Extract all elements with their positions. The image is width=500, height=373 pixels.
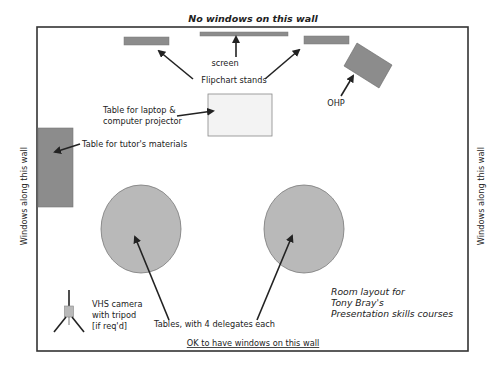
title-line-3: Presentation skills courses <box>331 308 453 319</box>
arrow-flipchart-left <box>159 51 193 79</box>
left-wall-label: Windows along this wall <box>19 147 29 245</box>
camera-label-2: with tripod <box>92 310 136 320</box>
flipchart-label: Flipchart stands <box>201 75 267 85</box>
flipchart-stand-right <box>304 36 349 44</box>
laptop-table <box>208 94 272 136</box>
ohp-label: OHP <box>327 98 345 108</box>
laptop-table-label-1: Table for laptop & <box>102 105 176 115</box>
screen-label: screen <box>211 58 238 68</box>
title-line-1: Room layout for <box>331 286 406 297</box>
camera-label-1: VHS camera <box>92 299 142 309</box>
top-wall-label: No windows on this wall <box>188 13 318 24</box>
projection-screen <box>200 32 288 36</box>
delegate-tables-label: Tables, with 4 delegates each <box>153 319 275 329</box>
bottom-wall-label: OK to have windows on this wall <box>187 338 319 348</box>
flipchart-stand-left <box>124 37 169 45</box>
ohp-table <box>344 43 392 88</box>
tutor-table <box>38 128 73 207</box>
delegate-table-left <box>101 185 181 273</box>
vhs-camera-tripod-icon <box>54 290 84 332</box>
tutor-table-label: Table for tutor's materials <box>81 139 187 149</box>
title-line-2: Tony Bray's <box>331 297 384 308</box>
right-wall-label: Windows along this wall <box>476 147 486 245</box>
delegate-table-right <box>264 185 344 273</box>
arrow-flipchart-right <box>265 50 299 79</box>
laptop-table-label-2: computer projector <box>103 116 183 126</box>
arrow-ohp <box>341 76 353 96</box>
room-layout-diagram: No windows on this wall OK to have windo… <box>0 0 500 373</box>
camera-label-3: [if req'd] <box>92 321 127 331</box>
